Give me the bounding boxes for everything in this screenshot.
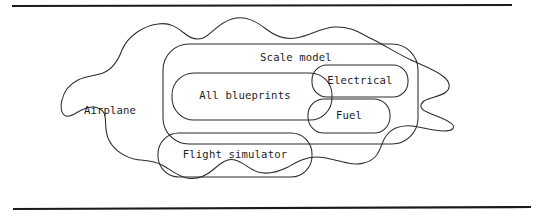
region-label-electrical: Electrical [327, 74, 392, 86]
region-label-scale-model: Scale model [260, 51, 332, 63]
diagram-canvas: Airplane Scale model All blueprints Elec… [0, 0, 537, 216]
bottom-rule [13, 207, 531, 209]
region-label-flight-simulator: Flight simulator [183, 148, 287, 160]
region-label-all-blueprints: All blueprints [199, 89, 290, 101]
region-label-fuel: Fuel [336, 109, 362, 121]
top-rule [12, 5, 512, 6]
region-label-airplane: Airplane [84, 104, 136, 116]
